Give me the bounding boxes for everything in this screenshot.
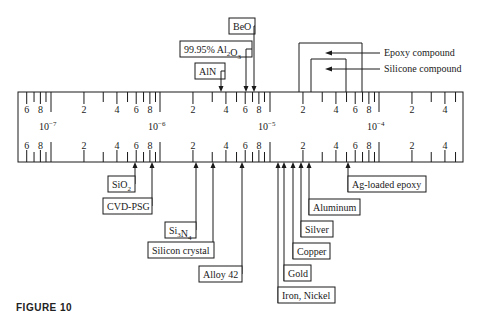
tick-label-bottom: 2: [190, 140, 195, 151]
top-material-labels: AlN99.95% Al2O3BeO: [180, 18, 257, 92]
tick-label-bottom: 8: [256, 140, 261, 151]
tick-label-bottom: 6: [243, 140, 248, 151]
arrow-down-icon: [244, 86, 249, 92]
bottom-material-silicon-crystal: Silicon crystal: [148, 162, 216, 258]
tick-label-top: 8: [256, 104, 261, 115]
tick-label-top: 2: [409, 104, 414, 115]
arrow-down-icon: [252, 86, 257, 92]
arrow-up-icon: [299, 162, 304, 168]
compound-brackets: Epoxy compoundSilicone compound: [299, 43, 462, 92]
tick-label-bottom: 8: [38, 140, 43, 151]
decade-label: 10−5: [258, 120, 276, 132]
material-label: 99.95% Al2O3: [184, 44, 242, 61]
arrow-up-icon: [194, 162, 199, 168]
tick-label-bottom: 6: [134, 140, 139, 151]
material-label: Silicon crystal: [152, 245, 210, 256]
decade-label: 10−6: [148, 120, 166, 132]
tick-label-bottom: 4: [442, 140, 447, 151]
tick-label-top: 4: [114, 104, 119, 115]
tick-label-top: 6: [134, 104, 139, 115]
tick-label-top: 8: [147, 104, 152, 115]
tick-label-bottom: 6: [353, 140, 358, 151]
bottom-material-sio2: SiO2: [108, 162, 138, 193]
tick-label-top: 2: [190, 104, 195, 115]
material-label: AlN: [199, 66, 216, 77]
tick-label-top: 4: [442, 104, 447, 115]
log-scale-ruler: 6688224466882244668822446688224410−710−6…: [18, 92, 463, 162]
arrow-up-icon: [240, 162, 245, 168]
tick-label-top: 6: [24, 104, 29, 115]
thermal-expansion-diagram: 6688224466882244668822446688224410−710−6…: [0, 0, 482, 317]
tick-label-bottom: 8: [366, 140, 371, 151]
tick-label-top: 8: [366, 104, 371, 115]
arrow-left-icon: [325, 51, 332, 56]
ruler-frame: [18, 92, 463, 162]
decade-label: 10−7: [39, 120, 57, 132]
tick-label-bottom: 4: [223, 140, 228, 151]
tick-label-bottom: 4: [114, 140, 119, 151]
arrow-up-icon: [346, 162, 351, 168]
tick-label-bottom: 6: [24, 140, 29, 151]
material-label: Silver: [305, 224, 330, 235]
arrow-down-icon: [219, 86, 224, 92]
material-label: Alloy 42: [203, 269, 238, 280]
arrow-left-icon: [325, 67, 332, 72]
material-label: CVD-PSG: [107, 201, 150, 212]
arrow-up-icon: [276, 162, 281, 168]
material-label: Ag-loaded epoxy: [352, 179, 421, 190]
tick-label-bottom: 2: [300, 140, 305, 151]
arrow-up-icon: [307, 162, 312, 168]
top-material-aln: AlN: [195, 63, 225, 92]
tick-label-bottom: 8: [147, 140, 152, 151]
compound-label: Epoxy compound: [384, 47, 455, 58]
arrow-up-icon: [211, 162, 216, 168]
bottom-material-si3n4: Si3N4: [165, 162, 199, 242]
decade-label: 10−4: [367, 120, 385, 132]
material-label: Copper: [297, 246, 327, 257]
bottom-material-alloy-42: Alloy 42: [199, 162, 245, 282]
material-label: Gold: [288, 268, 308, 279]
tick-label-bottom: 2: [409, 140, 414, 151]
arrow-up-icon: [291, 162, 296, 168]
tick-label-top: 6: [243, 104, 248, 115]
tick-label-top: 4: [223, 104, 228, 115]
bottom-material-labels: SiO2CVD-PSGSi3N4Silicon crystalAlloy 42I…: [103, 162, 426, 303]
tick-label-top: 2: [300, 104, 305, 115]
figure-caption: FIGURE 10: [16, 302, 72, 313]
material-label: Iron, Nickel: [282, 290, 331, 301]
material-label: Aluminum: [313, 202, 357, 213]
tick-label-bottom: 2: [81, 140, 86, 151]
tick-label-top: 8: [38, 104, 43, 115]
bracket-silicone-compound: Silicone compound: [311, 59, 462, 92]
tick-label-top: 6: [353, 104, 358, 115]
bottom-material-ag-loaded-epoxy: Ag-loaded epoxy: [346, 162, 427, 192]
arrow-up-icon: [282, 162, 287, 168]
arrow-up-icon: [150, 162, 155, 168]
tick-label-top: 2: [81, 104, 86, 115]
arrow-up-icon: [133, 162, 138, 168]
compound-label: Silicone compound: [384, 63, 462, 74]
material-label: BeO: [233, 21, 251, 32]
tick-label-top: 4: [333, 104, 338, 115]
tick-label-bottom: 4: [333, 140, 338, 151]
